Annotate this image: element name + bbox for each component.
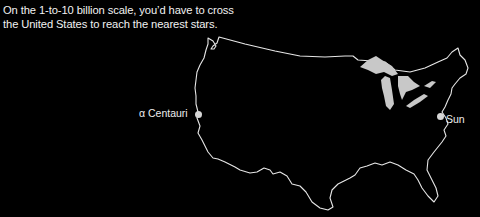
lake-michigan bbox=[381, 76, 394, 110]
lake-ontario bbox=[424, 81, 436, 88]
great-lakes bbox=[360, 56, 436, 110]
lake-erie bbox=[406, 94, 428, 108]
alpha-centauri-marker bbox=[195, 111, 202, 118]
alpha-centauri-label: α Centauri bbox=[139, 107, 188, 119]
sun-label: Sun bbox=[446, 113, 465, 125]
sun-marker bbox=[437, 113, 444, 120]
lake-huron bbox=[398, 76, 420, 100]
lake-superior bbox=[360, 56, 398, 76]
us-map-outline bbox=[0, 0, 480, 217]
us-border bbox=[195, 37, 468, 210]
